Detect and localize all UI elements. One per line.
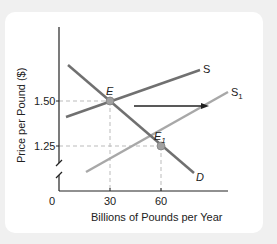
demand-curve-d — [68, 65, 194, 173]
y-tick-150: 1.50 — [34, 95, 55, 107]
supply-curve-s — [66, 70, 200, 117]
x-tick-0: 0 — [49, 195, 55, 207]
x-axis-title: Billions of Pounds per Year — [91, 211, 223, 223]
y-axis — [56, 27, 62, 191]
label-e: E — [106, 85, 114, 97]
x-tick-30: 30 — [104, 195, 116, 207]
y-tick-125: 1.25 — [34, 140, 55, 152]
y-axis-title: Price per Pound ($) — [15, 68, 27, 163]
label-s1: S1 — [231, 86, 243, 101]
supply-demand-chart: S S1 D E E1 1.50 1.25 0 30 60 Billions o… — [0, 0, 277, 244]
x-tick-60: 60 — [155, 195, 167, 207]
label-d: D — [196, 171, 204, 183]
equilibrium-point-e — [106, 97, 114, 105]
label-s: S — [203, 63, 210, 75]
